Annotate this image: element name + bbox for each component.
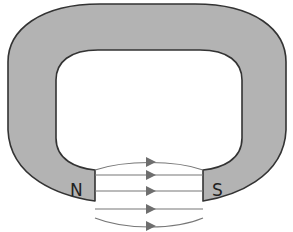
south-pole-label: S [212, 180, 223, 200]
arrow-right-icon [146, 157, 156, 167]
arrow-right-icon [146, 170, 156, 180]
arrow-right-icon [146, 186, 156, 196]
field-arrows [146, 157, 156, 231]
north-pole-label: N [70, 180, 83, 200]
arrow-right-icon [146, 221, 156, 231]
arrow-right-icon [146, 204, 156, 214]
horseshoe-magnet-diagram: N S [0, 0, 293, 232]
